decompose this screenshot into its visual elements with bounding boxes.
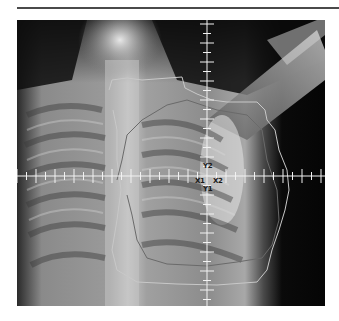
field-label-x2: X2 <box>213 178 223 185</box>
field-label-x1: X1 <box>195 178 205 185</box>
radiograph-image <box>17 20 325 306</box>
top-rule <box>17 7 339 9</box>
radiograph-frame: Y2 X1 X2 Y1 <box>17 20 325 306</box>
field-label-y2: Y2 <box>203 163 212 170</box>
field-label-y1: Y1 <box>203 186 212 193</box>
